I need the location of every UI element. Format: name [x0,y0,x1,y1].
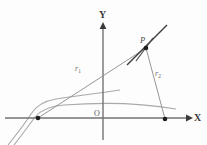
focus-left-marker [36,116,41,121]
y-axis-label: Y [99,10,106,20]
x-axis-arrowhead [186,115,193,122]
radius-r2-label: r2 [155,70,161,78]
origin-label: O [94,110,100,118]
y-axis-arrowhead [100,22,107,29]
focal-radius-r2-line [146,48,165,119]
radius-r1-subscript: 1 [78,68,81,74]
diagram-canvas [0,0,207,145]
point-p-marker [144,46,149,51]
geometry-figure: Y X O P r1 r2 [0,0,207,145]
x-axis-label: X [194,113,201,123]
focus-right-marker [163,117,168,122]
radius-r2-subscript: 2 [158,73,161,79]
focal-radius-r1-line [38,48,146,118]
tangent-line [127,25,167,65]
point-p-label: P [140,36,145,45]
radius-r1-label: r1 [75,65,81,73]
